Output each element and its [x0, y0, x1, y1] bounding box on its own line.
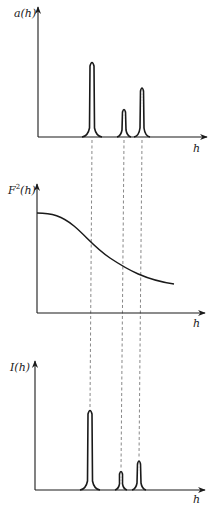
y-axis-label: F2(h): [7, 183, 36, 197]
y-axis-label: I(h): [9, 361, 30, 374]
diagram-canvas: a(h) h F2(h) h I(h) h: [0, 0, 214, 507]
peak-2: [115, 472, 127, 491]
peak-3: [132, 461, 146, 490]
connector-line-2: [121, 140, 124, 470]
peak-1: [80, 411, 100, 491]
x-axis-label: h: [193, 142, 200, 155]
x-axis-label: h: [193, 493, 200, 506]
panel-f-squared: F2(h) h: [7, 183, 205, 330]
dashed-connectors: [90, 140, 142, 470]
panel-i-of-h: I(h) h: [9, 361, 205, 506]
peak-1: [82, 63, 102, 138]
f-squared-curve: [37, 213, 174, 284]
connector-line-3: [139, 140, 142, 459]
panel-a-of-h: a(h) h: [14, 7, 207, 155]
peak-3: [134, 88, 150, 137]
y-axis-label: a(h): [14, 7, 36, 20]
peak-2: [117, 110, 131, 138]
x-axis-label: h: [193, 317, 200, 330]
connector-line-1: [90, 140, 92, 408]
